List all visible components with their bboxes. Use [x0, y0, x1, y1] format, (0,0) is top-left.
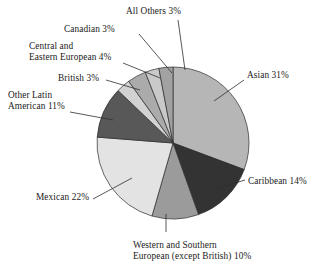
pie-label-british-line1: British 3% — [58, 73, 99, 83]
pie-label-canadian-line1: Canadian 3% — [64, 24, 115, 34]
leader-line-all-others — [178, 20, 185, 70]
pie-label-other-latin-american-line1: Other Latin — [8, 90, 52, 100]
pie-label-central-eastern-european-line2: Eastern European 4% — [29, 52, 111, 63]
pie-label-western-southern-european-line1: Western and Southern — [133, 240, 217, 250]
pie-chart: All Others 3% Canadian 3% Central and Ea… — [0, 0, 322, 275]
pie-label-asian: Asian 31% — [247, 70, 289, 81]
pie-label-asian-line1: Asian 31% — [247, 70, 289, 80]
pie-label-central-eastern-european-line1: Central and — [29, 41, 73, 51]
pie-label-caribbean: Caribbean 14% — [248, 176, 307, 187]
leader-line-canadian — [139, 34, 172, 73]
pie-slice-group — [97, 67, 249, 219]
pie-label-mexican: Mexican 22% — [36, 192, 89, 203]
pie-label-caribbean-line1: Caribbean 14% — [248, 176, 307, 186]
pie-label-other-latin-american: Other Latin American 11% — [8, 90, 65, 113]
pie-label-western-southern-european-line2: European (except British) 10% — [133, 251, 251, 262]
pie-label-all-others-line1: All Others 3% — [126, 6, 181, 16]
pie-label-british: British 3% — [58, 73, 99, 84]
pie-label-all-others: All Others 3% — [126, 6, 181, 17]
pie-label-central-eastern-european: Central and Eastern European 4% — [29, 41, 111, 64]
pie-label-canadian: Canadian 3% — [64, 24, 115, 35]
pie-label-other-latin-american-line2: American 11% — [8, 101, 65, 112]
pie-label-mexican-line1: Mexican 22% — [36, 192, 89, 202]
pie-label-western-southern-european: Western and Southern European (except Br… — [133, 240, 251, 263]
